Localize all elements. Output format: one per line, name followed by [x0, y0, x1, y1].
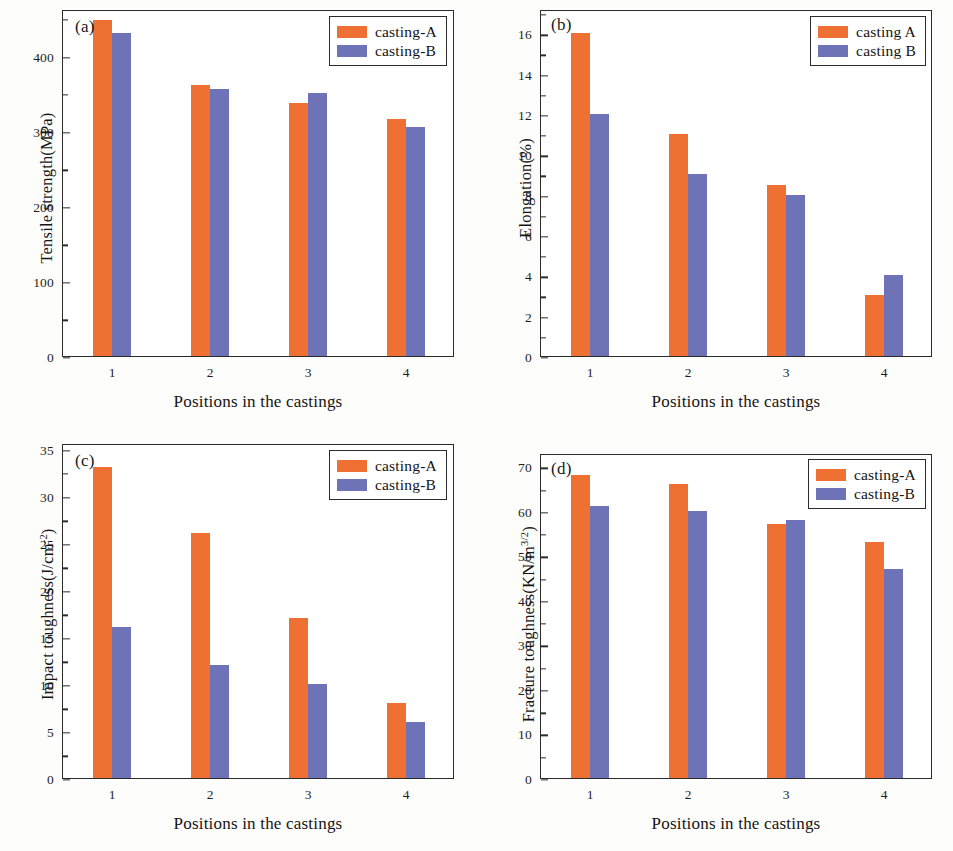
y-minor-tick-mark [63, 568, 68, 569]
bar-casting-b-pos-4 [884, 275, 903, 356]
y-tick-mark [63, 685, 70, 686]
bar-casting-b-pos-4 [406, 127, 425, 356]
y-tick-label: 0 [47, 772, 63, 788]
legend-swatch-casting-b [818, 45, 848, 57]
panel-label-b: (b) [551, 15, 572, 35]
y-tick-mark [63, 450, 70, 451]
y-minor-tick-mark [63, 320, 68, 321]
x-tick-label: 3 [305, 356, 312, 381]
x-tick-label: 2 [685, 778, 692, 803]
bar-casting-a-pos-1 [571, 33, 590, 356]
x-axis-label-b: Positions in the castings [540, 392, 932, 412]
bar-casting-b-pos-1 [112, 33, 131, 356]
y-minor-tick-mark [541, 490, 546, 491]
y-minor-tick-mark [541, 668, 546, 669]
y-tick-mark [541, 236, 548, 237]
y-minor-tick-mark [63, 615, 68, 616]
bar-casting-b-pos-3 [308, 93, 327, 356]
legend-label-casting-a: casting-A [375, 457, 437, 475]
legend-label-casting-a: casting-A [375, 23, 437, 41]
panel-label-d: (d) [551, 459, 572, 479]
legend-swatch-casting-a [816, 469, 846, 481]
bar-casting-b-pos-2 [210, 89, 229, 356]
x-tick-label: 4 [881, 778, 888, 803]
y-tick-mark [541, 468, 548, 469]
y-minor-tick-mark [541, 256, 546, 257]
x-tick-label: 1 [109, 778, 116, 803]
legend-swatch-casting-b [337, 479, 367, 491]
x-tick-label: 4 [881, 356, 888, 381]
bar-casting-b-pos-2 [688, 174, 707, 356]
bar-casting-b-pos-4 [406, 722, 425, 778]
bar-casting-b-pos-4 [884, 569, 903, 778]
x-axis-label-a: Positions in the castings [62, 392, 454, 412]
x-tick-label: 2 [207, 356, 214, 381]
x-tick-label: 3 [305, 778, 312, 803]
bar-casting-a-pos-2 [669, 134, 688, 356]
y-axis-label-b: Elongation(%) [516, 73, 536, 303]
y-tick-mark [541, 35, 548, 36]
bar-casting-a-pos-2 [669, 484, 688, 778]
bar-casting-a-pos-4 [387, 703, 406, 778]
figure-sheet: 01002003004001234 (a) casting-A casting-… [0, 0, 953, 851]
y-tick-mark [541, 646, 548, 647]
legend-c: casting-A casting-B [329, 450, 447, 500]
y-tick-mark [63, 732, 70, 733]
y-minor-tick-mark [541, 757, 546, 758]
bar-casting-b-pos-3 [308, 684, 327, 778]
legend-b: casting A casting B [810, 16, 926, 66]
y-minor-tick-mark [63, 245, 68, 246]
x-tick-label: 1 [109, 356, 116, 381]
bar-casting-a-pos-1 [93, 20, 112, 356]
y-minor-tick-mark [63, 19, 68, 20]
y-tick-mark [541, 196, 548, 197]
y-tick-label: 0 [47, 350, 63, 366]
plot-area-d: 0102030405060701234 (d) casting-A castin… [540, 454, 932, 779]
bar-casting-b-pos-2 [688, 511, 707, 778]
y-tick-label: 70 [518, 460, 541, 476]
bar-casting-b-pos-3 [786, 520, 805, 778]
legend-d: casting-A casting-B [808, 459, 926, 509]
y-minor-tick-mark [63, 94, 68, 95]
bar-casting-a-pos-2 [191, 85, 210, 356]
y-tick-mark [63, 357, 70, 358]
y-minor-tick-mark [541, 713, 546, 714]
legend-label-casting-b: casting-B [375, 476, 436, 494]
legend-swatch-casting-a [818, 26, 848, 38]
bar-casting-b-pos-3 [786, 195, 805, 356]
legend-swatch-casting-a [337, 460, 367, 472]
y-minor-tick-mark [63, 521, 68, 522]
y-tick-mark [541, 357, 548, 358]
y-tick-mark [541, 690, 548, 691]
x-axis-label-c: Positions in the castings [62, 814, 454, 834]
y-tick-mark [63, 638, 70, 639]
x-tick-label: 3 [783, 356, 790, 381]
legend-label-casting-b: casting B [856, 42, 916, 60]
legend-a: casting-A casting-B [329, 16, 447, 66]
x-tick-label: 2 [685, 356, 692, 381]
y-minor-tick-mark [541, 579, 546, 580]
y-tick-mark [541, 75, 548, 76]
y-tick-label: 2 [525, 310, 541, 326]
bar-casting-a-pos-3 [289, 103, 308, 356]
legend-label-casting-b: casting-B [375, 42, 436, 60]
legend-swatch-casting-a [337, 26, 367, 38]
y-tick-mark [541, 779, 548, 780]
y-minor-tick-mark [541, 337, 546, 338]
bar-casting-a-pos-1 [571, 475, 590, 778]
x-tick-label: 3 [783, 778, 790, 803]
y-minor-tick-mark [541, 176, 546, 177]
plot-area-b: 02468101214161234 (b) casting A casting … [540, 10, 932, 357]
y-tick-mark [541, 277, 548, 278]
bar-casting-a-pos-3 [767, 185, 786, 356]
panel-label-a: (a) [75, 17, 95, 37]
y-axis-label-a: Tensile strength(MPa) [37, 63, 57, 313]
y-minor-tick-mark [541, 135, 546, 136]
y-tick-mark [541, 735, 548, 736]
y-tick-mark [63, 544, 70, 545]
x-tick-label: 1 [587, 778, 594, 803]
legend-row-casting-b: casting-B [816, 484, 916, 503]
chart-panel-a: 01002003004001234 (a) casting-A casting-… [0, 0, 470, 425]
bar-casting-b-pos-1 [112, 627, 131, 778]
y-tick-mark [541, 601, 548, 602]
